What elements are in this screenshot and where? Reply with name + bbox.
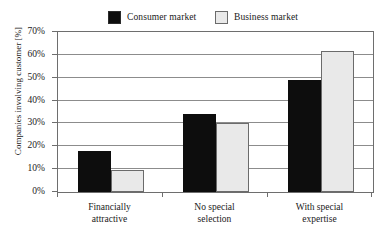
y-tick-label: 30% <box>28 117 45 127</box>
bar-business-market <box>321 51 354 192</box>
legend-entry-consumer-market: Consumer market <box>108 10 196 24</box>
legend-label-consumer-market: Consumer market <box>127 12 196 23</box>
plot-area <box>57 31 374 193</box>
y-tick-label: 20% <box>28 140 45 150</box>
x-tick-label-line: With special <box>267 201 372 213</box>
y-tick-label: 60% <box>28 49 45 59</box>
y-tick-label: 70% <box>28 26 45 36</box>
legend-label-business-market: Business market <box>234 12 298 23</box>
x-tick-label-line: attractive <box>57 213 162 225</box>
legend-swatch-consumer-market <box>108 11 121 24</box>
bar-consumer-market <box>288 80 321 192</box>
bar-business-market <box>216 123 249 192</box>
legend-entry-business-market: Business market <box>215 10 298 24</box>
bar-chart-figure: Consumer market Business market Companie… <box>0 0 385 238</box>
x-tick-label: Financiallyattractive <box>57 201 162 225</box>
x-axis: FinanciallyattractiveNo specialselection… <box>57 192 372 238</box>
y-tick-label: 50% <box>28 72 45 82</box>
y-axis-title: Companies involving customer [%] <box>13 11 23 171</box>
x-tick-label-line: No special <box>162 201 267 213</box>
bar-business-market <box>111 170 144 192</box>
x-tick-mark <box>162 192 163 197</box>
y-axis: Companies involving customer [%] 0%10%20… <box>0 24 57 204</box>
x-tick-label-line: Financially <box>57 201 162 213</box>
x-tick-label-line: expertise <box>267 213 372 225</box>
x-tick-mark <box>267 192 268 197</box>
y-tick-label: 0% <box>32 186 45 196</box>
chart-legend: Consumer market Business market <box>0 9 385 27</box>
bar-consumer-market <box>78 151 111 192</box>
x-tick-label-line: selection <box>162 213 267 225</box>
bar-consumer-market <box>183 114 216 192</box>
x-tick-label: With specialexpertise <box>267 201 372 225</box>
x-tick-mark <box>57 192 58 197</box>
y-tick-label: 10% <box>28 163 45 173</box>
x-tick-label: No specialselection <box>162 201 267 225</box>
legend-swatch-business-market <box>215 11 228 24</box>
x-tick-mark <box>371 192 372 197</box>
y-tick-label: 40% <box>28 95 45 105</box>
